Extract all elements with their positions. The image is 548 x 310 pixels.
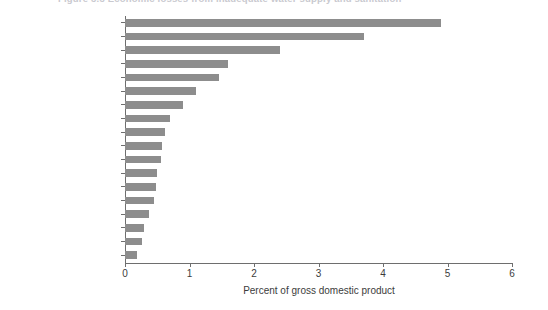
- x-axis-tick: [125, 263, 126, 267]
- x-axis-tick: [190, 263, 191, 267]
- bar-row: West Bank and Gaza: [125, 57, 512, 71]
- bar-row: Morocco: [125, 139, 512, 153]
- bar: [125, 224, 144, 232]
- bar-row: Egypt, Arab Rep.: [125, 125, 512, 139]
- bar-row: Kuwait: [125, 166, 512, 180]
- bar-row: Djibouti: [125, 71, 512, 85]
- bar: [125, 101, 183, 109]
- x-axis-tick-label: 5: [433, 268, 463, 279]
- bar: [125, 197, 154, 205]
- x-axis-tick-label: 2: [239, 268, 269, 279]
- bar-row: Libya: [125, 16, 512, 30]
- bar-row: Iraq: [125, 43, 512, 57]
- bar: [125, 183, 156, 191]
- x-axis-tick-label: 1: [175, 268, 205, 279]
- x-axis-tick-label: 3: [304, 268, 334, 279]
- bar: [125, 46, 280, 54]
- bar: [125, 19, 441, 27]
- bar-row: Qatar: [125, 235, 512, 249]
- bar: [125, 87, 196, 95]
- bar: [125, 115, 170, 123]
- bar-row: United Arab Emirates: [125, 180, 512, 194]
- bar-row: Oman: [125, 112, 512, 126]
- bar-row: Yemen, Rep.: [125, 30, 512, 44]
- bar-chart: LibyaYemen, Rep.IraqWest Bank and GazaDj…: [0, 0, 548, 310]
- bar-row: Tunisia: [125, 98, 512, 112]
- x-axis-label: Percent of gross domestic product: [125, 285, 513, 296]
- bar: [125, 142, 162, 150]
- bar-row: Lebanon: [125, 248, 512, 262]
- bar-row: Israel: [125, 221, 512, 235]
- bar: [125, 74, 219, 82]
- plot-area: LibyaYemen, Rep.IraqWest Bank and GazaDj…: [125, 16, 512, 262]
- x-axis-tick-label: 0: [110, 268, 140, 279]
- bar: [125, 33, 364, 41]
- x-axis-tick-label: 4: [368, 268, 398, 279]
- bar-row: Iran, Islamic Rep.: [125, 194, 512, 208]
- bar-row: Jordan: [125, 207, 512, 221]
- x-axis-tick: [319, 263, 320, 267]
- x-axis-tick: [254, 263, 255, 267]
- bar: [125, 210, 149, 218]
- bar-row: Saudi Arabia: [125, 153, 512, 167]
- x-axis-tick: [512, 263, 513, 267]
- bar: [125, 251, 137, 259]
- x-axis-tick-label: 6: [497, 268, 527, 279]
- bar: [125, 128, 165, 136]
- bar: [125, 238, 142, 246]
- bar: [125, 169, 157, 177]
- bar: [125, 156, 161, 164]
- x-axis-tick: [383, 263, 384, 267]
- bar-row: Algeria: [125, 84, 512, 98]
- x-axis-tick: [448, 263, 449, 267]
- bar: [125, 60, 228, 68]
